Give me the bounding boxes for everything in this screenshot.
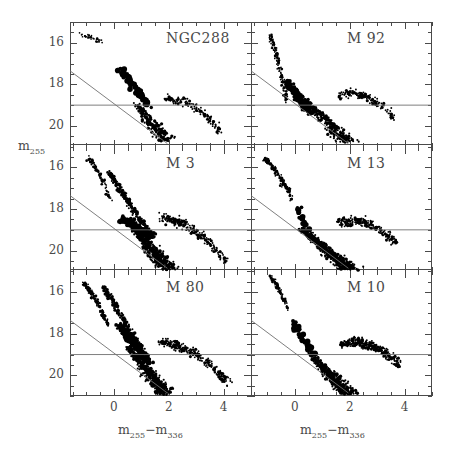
x-tick <box>281 147 282 151</box>
y-tick <box>70 240 74 241</box>
x-tick <box>224 271 225 278</box>
x-tick <box>309 147 310 151</box>
y-tick <box>244 84 251 85</box>
panel-title-m13: M 13 <box>347 155 386 171</box>
y-tick <box>251 355 255 356</box>
x-tick <box>391 271 392 275</box>
x-tick <box>363 392 364 396</box>
y-tick <box>251 53 255 54</box>
y-tick <box>70 178 74 179</box>
x-tick <box>405 271 406 278</box>
figure-canvas: m255 m255−m336 m255−m336 161820161820161… <box>0 0 452 451</box>
x-tick-label: 4 <box>214 400 234 414</box>
x-tick <box>224 140 225 147</box>
y-tick <box>428 365 432 366</box>
y-tick-label: 20 <box>38 243 64 257</box>
x-tick <box>196 392 197 396</box>
x-tick <box>141 22 142 26</box>
x-tick <box>141 392 142 396</box>
x-tick <box>128 22 129 26</box>
x-tick <box>350 22 351 29</box>
x-tick <box>350 147 351 154</box>
y-tick <box>251 105 255 106</box>
y-tick <box>70 105 74 106</box>
x-tick <box>182 22 183 26</box>
x-tick <box>196 22 197 26</box>
y-tick <box>428 323 432 324</box>
x-tick <box>86 147 87 151</box>
y-tick <box>428 230 432 231</box>
x-tick <box>405 22 406 29</box>
x-tick <box>254 147 255 151</box>
y-tick <box>70 136 74 137</box>
x-tick <box>363 271 364 275</box>
x-tick <box>114 271 115 278</box>
x-tick <box>224 147 225 154</box>
x-tick <box>295 264 296 271</box>
y-tick <box>251 219 255 220</box>
x-tick <box>73 271 74 275</box>
y-tick <box>244 251 251 252</box>
y-tick <box>70 375 77 376</box>
x-tick <box>281 22 282 26</box>
x-tick <box>432 22 433 26</box>
x-tick <box>169 264 170 271</box>
x-tick <box>114 264 115 271</box>
y-tick <box>425 84 432 85</box>
y-tick <box>70 64 74 65</box>
y-tick <box>428 64 432 65</box>
x-tick <box>418 22 419 26</box>
x-tick <box>350 264 351 271</box>
x-tick <box>100 147 101 151</box>
x-tick <box>196 271 197 275</box>
x-tick <box>86 22 87 26</box>
x-axis-title-left: m255−m336 <box>118 422 183 440</box>
x-tick <box>350 140 351 147</box>
y-tick-label: 20 <box>38 367 64 381</box>
y-tick <box>251 32 255 33</box>
x-tick-label: 2 <box>340 400 360 414</box>
x-tick-label: 0 <box>285 400 305 414</box>
y-tick <box>251 303 255 304</box>
panel-title-ngc288: NGC288 <box>166 30 230 46</box>
x-tick <box>169 271 170 278</box>
y-tick <box>251 199 255 200</box>
panel-title-m3: M 3 <box>166 155 195 171</box>
x-tick <box>169 140 170 147</box>
x-tick <box>405 389 406 396</box>
y-tick <box>251 74 255 75</box>
y-tick <box>251 261 255 262</box>
x-tick <box>295 22 296 29</box>
y-tick <box>428 396 432 397</box>
x-tick <box>237 271 238 275</box>
x-tick <box>210 147 211 151</box>
y-tick <box>251 230 255 231</box>
y-tick <box>251 209 258 210</box>
x-tick <box>73 392 74 396</box>
x-tick <box>155 271 156 275</box>
y-tick <box>251 64 255 65</box>
x-tick <box>363 147 364 151</box>
y-tick <box>428 188 432 189</box>
y-tick <box>244 126 251 127</box>
y-tick <box>428 74 432 75</box>
y-tick <box>251 167 258 168</box>
panel-title-m92: M 92 <box>347 30 386 46</box>
x-tick <box>432 271 433 275</box>
x-tick <box>281 271 282 275</box>
x-tick <box>210 392 211 396</box>
panel-title-m10: M 10 <box>347 279 386 295</box>
y-tick <box>70 188 74 189</box>
y-tick <box>428 53 432 54</box>
x-tick <box>100 22 101 26</box>
y-tick <box>70 95 74 96</box>
y-tick-label: 16 <box>38 284 64 298</box>
y-tick <box>244 209 251 210</box>
y-tick <box>251 178 255 179</box>
x-tick <box>295 147 296 154</box>
x-tick <box>405 140 406 147</box>
x-tick <box>391 392 392 396</box>
y-tick <box>251 396 255 397</box>
y-tick <box>251 251 258 252</box>
y-tick <box>70 43 77 44</box>
